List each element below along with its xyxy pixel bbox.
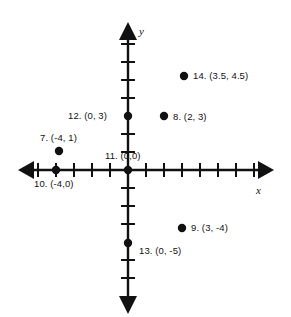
data-point-10	[52, 166, 60, 174]
x-axis-right-arrowhead	[258, 161, 274, 179]
data-point-13	[124, 239, 132, 247]
point-label-9: 9. (3, -4)	[191, 223, 228, 233]
data-point-7	[55, 147, 63, 155]
x-axis-left-arrowhead	[18, 161, 34, 179]
data-point-14	[180, 72, 188, 80]
coordinate-plane-figure: 7. (-4, 1) 8. (2, 3) 9. (3, -4) 10. (-4,…	[0, 0, 291, 317]
data-point-11	[124, 166, 132, 174]
y-axis-label: y	[139, 26, 144, 37]
point-label-12: 12. (0, 3)	[68, 111, 107, 121]
point-label-7: 7. (-4, 1)	[40, 133, 77, 143]
x-axis-label: x	[256, 185, 261, 196]
data-point-8	[160, 112, 168, 120]
data-point-9	[178, 224, 186, 232]
y-axis-up-arrowhead	[119, 22, 137, 40]
axes-and-points-svg	[0, 0, 291, 317]
point-label-10: 10. (-4,0)	[34, 179, 74, 189]
y-axis-down-arrowhead	[119, 296, 137, 314]
data-point-12	[124, 112, 132, 120]
point-label-8: 8. (2, 3)	[173, 112, 207, 122]
point-label-11: 11. (0,0)	[105, 151, 141, 161]
point-label-13: 13. (0, -5)	[139, 246, 181, 256]
point-label-14: 14. (3.5, 4.5)	[193, 71, 248, 81]
